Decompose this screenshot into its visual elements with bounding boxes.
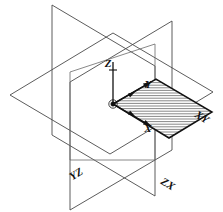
diagram-canvas: Z Y X YZ ZX XY <box>0 0 223 212</box>
origin-dot <box>111 102 115 106</box>
coordinate-planes-diagram: Z Y X YZ ZX XY <box>0 0 223 212</box>
plane-base-horizontal <box>10 33 213 154</box>
axis-label-z: Z <box>104 57 112 69</box>
axis-label-x: X <box>143 122 152 134</box>
plane-xy <box>100 79 223 138</box>
plane-base-outline <box>10 33 213 154</box>
plane-label-zx: ZX <box>158 174 178 193</box>
